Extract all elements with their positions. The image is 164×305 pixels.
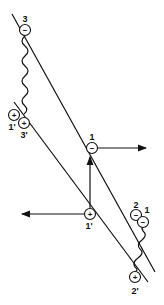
site-1: 1 − — [87, 132, 98, 154]
plus-icon: + — [88, 210, 93, 219]
site-2prime: + 2' — [130, 272, 141, 297]
site-3prime: + 3' — [19, 118, 30, 141]
site-3: 3 − — [20, 14, 31, 36]
minus-icon: − — [90, 144, 95, 153]
site-label: 2' — [131, 286, 138, 296]
site-label: 1' — [85, 221, 92, 231]
site-1prime-upper: + 1' — [8, 110, 19, 133]
site-label: 1 — [144, 205, 149, 215]
wavy-link-right — [134, 222, 146, 272]
plus-icon: + — [22, 119, 27, 128]
plus-icon: + — [133, 273, 138, 282]
upper-line — [12, 14, 155, 272]
site-label: 1' — [8, 122, 15, 132]
minus-icon: − — [23, 26, 28, 35]
site-label: 3 — [22, 14, 27, 24]
site-1prime-lower: + 1' — [85, 209, 96, 232]
lower-line — [14, 102, 148, 282]
wavy-link-left — [22, 36, 28, 114]
site-label: 1 — [89, 132, 94, 142]
minus-icon: − — [141, 218, 146, 227]
diagram-canvas: 3 − + 1' + 3' 1 − + 1' 2 − 1 − + — [0, 0, 164, 305]
minus-icon: − — [134, 211, 139, 220]
site-label: 2 — [133, 200, 138, 210]
site-label: 3' — [20, 130, 27, 140]
plus-icon: + — [12, 111, 17, 120]
